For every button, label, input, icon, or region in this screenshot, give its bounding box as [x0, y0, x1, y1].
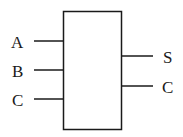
- block-box: [64, 12, 122, 130]
- output-label-c: C: [162, 78, 173, 97]
- input-label-c: C: [12, 91, 23, 110]
- output-label-s: S: [163, 48, 172, 67]
- input-label-b: B: [12, 62, 23, 81]
- input-label-a: A: [11, 33, 24, 52]
- full-adder-diagram: A B C S C: [0, 0, 183, 137]
